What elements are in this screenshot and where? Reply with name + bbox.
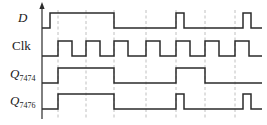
timing-diagram-figure: DClkQ7474Q7476 bbox=[0, 0, 267, 125]
waveform-Clk bbox=[42, 41, 262, 56]
waveform-group bbox=[42, 13, 262, 109]
time-axis bbox=[39, 2, 44, 119]
gridline-group bbox=[58, 10, 235, 120]
signal-label-subscript: 7474 bbox=[19, 74, 35, 83]
waveform-Q7474 bbox=[42, 68, 262, 83]
timing-diagram-canvas: DClkQ7474Q7476 bbox=[0, 0, 267, 125]
signal-label-D: D bbox=[17, 10, 28, 25]
signal-label-Clk: Clk bbox=[12, 38, 31, 53]
waveform-Q7476 bbox=[42, 94, 262, 109]
signal-label-Q7474: Q7474 bbox=[10, 66, 35, 83]
signal-label-group: DClkQ7474Q7476 bbox=[10, 10, 35, 110]
signal-label-Q7476: Q7476 bbox=[10, 93, 35, 110]
waveform-D bbox=[42, 13, 262, 28]
signal-label-subscript: 7476 bbox=[19, 101, 35, 110]
axis-up-arrow-icon bbox=[39, 2, 44, 9]
